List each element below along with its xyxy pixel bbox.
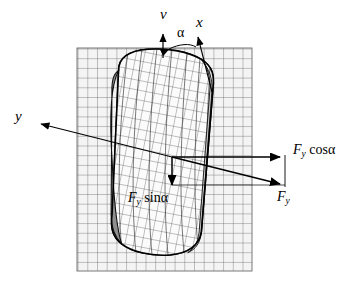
label-slip-angle-alpha: α [177,26,184,40]
label-fy-cos-alpha-fn: cos [309,142,328,157]
label-fy-cos-alpha-greek: α [328,142,335,157]
label-fy-sin-alpha: Fy sinα [128,191,168,207]
label-fy-sub: y [286,196,290,206]
label-fy-sin-alpha-f: F [128,190,137,205]
label-axis-x: x [196,15,203,30]
label-fy-cos-alpha-f: F [293,142,302,157]
label-fy-cos-alpha: Fy cosα [293,143,335,159]
label-fy-sin-alpha-greek: α [161,190,168,205]
label-velocity-v: v [160,7,167,22]
figure-canvas: v α x y Fy cosα Fy Fy sinα [0,0,354,287]
label-axis-y: y [15,109,22,124]
label-fy-sin-alpha-fn: sin [144,190,160,205]
label-fy: Fy [277,190,290,206]
label-fy-f: F [277,189,286,204]
